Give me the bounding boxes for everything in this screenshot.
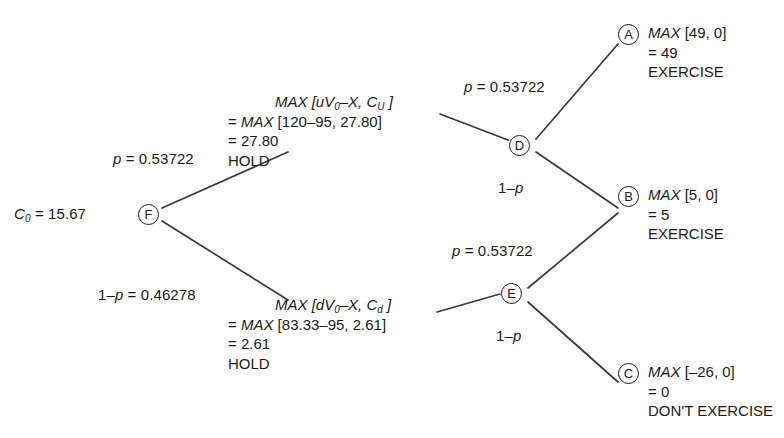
node-f-circle[interactable]: F [138,204,159,225]
terminal-b-line-1: MAX [5, 0] [648,185,724,205]
upper-node-line-1: MAX [uV0–X, CU ] [228,92,393,112]
terminal-b-text: MAX [5, 0] = 5 EXERCISE [648,185,724,244]
upper-node-line-4: HOLD [228,151,393,171]
edge-d-up-a [536,44,618,139]
node-b-circle[interactable]: B [618,186,639,207]
terminal-a-line-3: EXERCISE [648,62,726,82]
terminal-a-line-2: = 49 [648,43,726,63]
upper-node-line-2: = MAX [120–95, 27.80] [228,112,393,132]
branch-label-d-up: p = 0.53722 [464,78,545,96]
terminal-a-line-1: MAX [49, 0] [648,23,726,43]
terminal-c-line-2: = 0 [648,382,773,402]
branch-label-root-up: p = 0.53722 [113,150,194,168]
root-value-label: C0 = 15.67 [14,205,86,223]
terminal-b-line-2: = 5 [648,205,724,225]
edge-upper-to-d [440,114,508,140]
lower-node-line-2: = MAX [83.33–95, 2.61] [228,315,391,335]
branch-label-e-up: p = 0.53722 [452,242,533,260]
branch-label-d-down: 1–p [498,179,523,197]
lower-node-line-3: = 2.61 [228,334,391,354]
node-a-circle[interactable]: A [618,24,639,45]
node-d-circle[interactable]: D [509,135,530,156]
terminal-c-line-1: MAX [–26, 0] [648,362,773,382]
lower-intermediate-node-text: MAX [dV0–X, Cd ] = MAX [83.33–95, 2.61] … [228,295,391,373]
edge-d-down-b [536,152,618,208]
lower-node-line-4: HOLD [228,354,391,374]
lower-node-line-1: MAX [dV0–X, Cd ] [228,295,391,315]
upper-intermediate-node-text: MAX [uV0–X, CU ] = MAX [120–95, 27.80] =… [228,92,393,170]
branch-label-root-down: 1–p = 0.46278 [98,286,196,304]
node-e-circle[interactable]: E [501,283,522,304]
node-c-circle[interactable]: C [618,363,639,384]
edge-e-up-b [528,213,618,288]
terminal-c-text: MAX [–26, 0] = 0 DON'T EXERCISE [648,362,773,421]
terminal-a-text: MAX [49, 0] = 49 EXERCISE [648,23,726,82]
edge-lower-to-e [437,294,500,312]
edge-e-down-c [528,302,618,382]
terminal-b-line-3: EXERCISE [648,224,724,244]
branch-label-e-down: 1–p [496,327,521,345]
terminal-c-line-3: DON'T EXERCISE [648,401,773,421]
upper-node-line-3: = 27.80 [228,131,393,151]
